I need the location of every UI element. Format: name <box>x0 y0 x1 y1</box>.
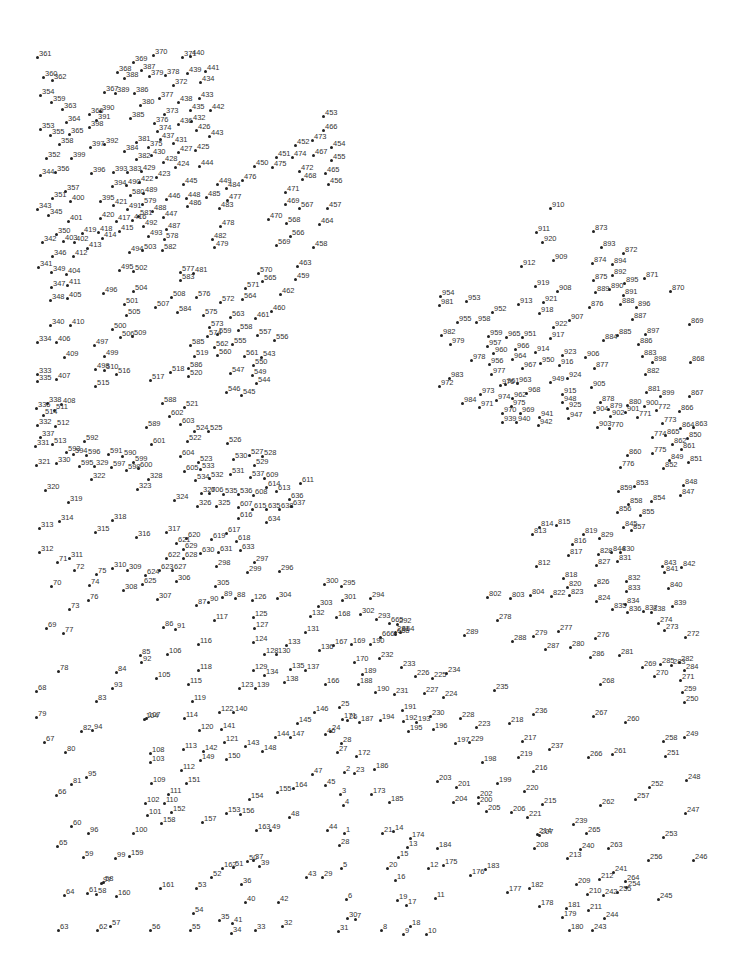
dot-number-label: 72 <box>76 563 84 571</box>
dot-number-label: 170 <box>356 655 369 663</box>
dot-number-label: 870 <box>672 284 685 292</box>
dot-number-label: 425 <box>197 143 210 151</box>
dot-number-label: 611 <box>302 476 314 484</box>
dot-number-label: 194 <box>382 713 395 721</box>
dot-number-label: 94 <box>94 723 102 731</box>
dot-number-label: 252 <box>651 780 664 788</box>
dot-number-label: 499 <box>106 349 119 357</box>
dot-number-label: 963 <box>519 376 532 384</box>
dot-number-label: 348 <box>52 293 65 301</box>
dot-number-label: 317 <box>168 525 181 533</box>
dot-number-label: 410 <box>72 318 85 326</box>
dot-number-label: 84 <box>118 665 126 673</box>
dot-number-label: 421 <box>115 198 128 206</box>
dot-number-label: 607 <box>240 500 253 508</box>
dot-number-label: 834 <box>627 597 640 605</box>
dot-number-label: 954 <box>442 289 455 297</box>
dot-number-label: 219 <box>520 750 533 758</box>
dot-number-label: 899 <box>662 389 675 397</box>
dot-number-label: 355 <box>52 128 65 136</box>
dot-number-label: 259 <box>684 685 697 693</box>
dot-number-label: 770 <box>611 421 624 429</box>
dot-number-label: 16 <box>397 873 405 881</box>
dot-number-label: 776 <box>622 460 635 468</box>
dot-number-label: 569 <box>278 238 291 246</box>
dot-number-label: 323 <box>139 482 152 490</box>
dot-number-label: 496 <box>105 286 118 294</box>
dot-number-label: 210 <box>589 887 602 895</box>
dot-number-label: 131 <box>307 625 320 633</box>
dot-number-label: 326 <box>199 499 212 507</box>
dot-number-label: 17 <box>408 898 416 906</box>
dot-number-label: 53 <box>198 881 206 889</box>
dot-number-label: 483 <box>221 201 234 209</box>
dot-number-label: 775 <box>654 446 667 454</box>
dot-number-label: 427 <box>180 145 193 153</box>
dot-number-label: 618 <box>238 534 251 542</box>
dot-number-label: 224 <box>445 690 458 698</box>
dot-number-label: 972 <box>441 379 454 387</box>
dot-number-label: 379 <box>151 69 164 77</box>
dot-number-label: 86 <box>165 620 173 628</box>
dot-number-label: 96 <box>90 826 98 834</box>
dot-number-label: 223 <box>478 720 491 728</box>
dot-number-label: 434 <box>202 75 215 83</box>
dot-number-label: 272 <box>687 630 700 638</box>
dot-number-label: 440 <box>192 49 205 57</box>
dot-number-label: 167 <box>335 638 348 646</box>
dot-number-label: 820 <box>569 580 582 588</box>
dot-number-label: 604 <box>182 449 195 457</box>
dot-number-label: 168 <box>338 610 351 618</box>
dot-number-label: 409 <box>66 350 79 358</box>
dot-number-label: 432 <box>193 114 206 122</box>
dot-number-label: 270 <box>656 669 669 677</box>
dot-number-label: 850 <box>689 431 702 439</box>
dot-number-label: 634 <box>268 515 281 523</box>
dot-number-label: 132 <box>312 609 325 617</box>
dot-number-label: 836 <box>629 605 642 613</box>
dot-number-label: 502 <box>135 264 148 272</box>
dot-number-label: 530 <box>235 452 248 460</box>
dot-number-label: 497 <box>96 338 109 346</box>
dot-number-label: 342 <box>44 235 57 243</box>
dot-number-label: 520 <box>190 369 203 377</box>
dot-number-label: 331 <box>37 439 50 447</box>
dot-number-label: 166 <box>327 677 340 685</box>
dot-number-label: 426 <box>198 123 211 131</box>
dot-number-label: 280 <box>572 640 585 648</box>
dot-number-label: 147 <box>292 730 305 738</box>
dot-number-label: 178 <box>541 899 554 907</box>
dot-number-label: 248 <box>688 773 701 781</box>
dot-number-label: 583 <box>182 273 195 281</box>
dot-number-label: 613 <box>278 484 291 492</box>
dot-number-label: 18 <box>412 919 420 927</box>
dot-number-label: 150 <box>228 752 241 760</box>
dot-number-label: 479 <box>216 240 229 248</box>
dot-number-label: 897 <box>647 327 660 335</box>
dot-number-label: 135 <box>292 662 305 670</box>
dot-number-label: 544 <box>258 376 271 384</box>
dot-number-label: 447 <box>165 210 178 218</box>
dot-number-label: 823 <box>571 588 584 596</box>
dot-number-label: 854 <box>653 494 666 502</box>
dot-number-label: 887 <box>634 312 647 320</box>
dot-number-label: 461 <box>257 311 270 319</box>
dot-number-label: 313 <box>41 521 54 529</box>
dot-number-label: 866 <box>681 404 694 412</box>
dot-number-label: 857 <box>633 523 646 531</box>
dot-number-label: 471 <box>287 185 300 193</box>
dot-number-label: 886 <box>640 337 653 345</box>
dot-number-label: 950 <box>542 356 555 364</box>
dot-number-label: 521 <box>186 400 199 408</box>
dot-number-label: 253 <box>665 830 678 838</box>
dot-number-label: 267 <box>595 709 608 717</box>
dot-number-label: 385 <box>132 111 145 119</box>
dot-number-label: 134 <box>266 668 279 676</box>
dot-number-label: 36 <box>243 877 251 885</box>
dot-number-label: 221 <box>529 810 542 818</box>
dot-number-label: 453 <box>325 109 338 117</box>
dot-number-label: 362 <box>54 73 67 81</box>
dot-number-label: 813 <box>534 527 547 535</box>
dot-number-label: 182 <box>531 881 544 889</box>
dot-number-label: 555 <box>234 337 247 345</box>
